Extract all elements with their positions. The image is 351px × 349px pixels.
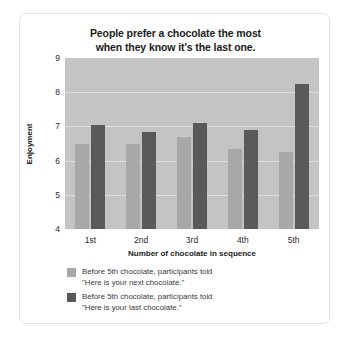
y-tick-label: 8 xyxy=(55,87,60,97)
legend-item: Before 5th chocolate, participants told"… xyxy=(67,292,317,313)
x-tick-label: 1st xyxy=(65,235,116,245)
y-tick-label: 5 xyxy=(55,190,60,200)
bar-2nd-series1 xyxy=(126,144,140,230)
y-tick-label: 7 xyxy=(55,121,60,131)
y-axis-label: Enjoyment xyxy=(25,123,34,164)
plot-wrapper: Enjoyment 456789 1st2nd3rd4th5th Number … xyxy=(65,58,319,229)
bar-1st-series1 xyxy=(75,144,89,230)
gridline xyxy=(65,92,319,93)
legend-label-line-1: Before 5th chocolate, participants told xyxy=(82,292,212,301)
bar-4th-series2 xyxy=(244,130,258,229)
legend-label-line-1: Before 5th chocolate, participants told xyxy=(82,267,212,276)
bar-2nd-series2 xyxy=(142,132,156,229)
bar-5th-series1 xyxy=(279,152,293,229)
bar-5th-series2 xyxy=(295,84,309,229)
bar-4th-series1 xyxy=(228,149,242,229)
x-tick-label: 2nd xyxy=(116,235,167,245)
legend-swatch-icon xyxy=(67,293,76,302)
x-tick-label: 4th xyxy=(217,235,268,245)
legend-label-line-2: "Here is your last chocolate." xyxy=(82,303,212,314)
legend-label: Before 5th chocolate, participants told"… xyxy=(82,292,212,313)
bar-3rd-series1 xyxy=(177,137,191,229)
x-axis-label: Number of chocolate in sequence xyxy=(65,249,319,258)
x-tick-label: 3rd xyxy=(167,235,218,245)
chart-card: People prefer a chocolate the most when … xyxy=(19,13,330,324)
y-tick-label: 9 xyxy=(55,53,60,63)
legend-item: Before 5th chocolate, participants told"… xyxy=(67,267,317,288)
legend-swatch-icon xyxy=(67,268,76,277)
bar-1st-series2 xyxy=(91,125,105,229)
bar-3rd-series2 xyxy=(193,123,207,229)
x-tick-label: 5th xyxy=(268,235,319,245)
chart-legend: Before 5th chocolate, participants told"… xyxy=(67,267,317,317)
y-tick-label: 4 xyxy=(55,224,60,234)
chart-title-line-2: when they know it's the last one. xyxy=(96,41,256,53)
y-tick-label: 6 xyxy=(55,156,60,166)
chart-title: People prefer a chocolate the most when … xyxy=(20,27,331,54)
chart-title-line-1: People prefer a chocolate the most xyxy=(90,27,261,39)
legend-label: Before 5th chocolate, participants told"… xyxy=(82,267,212,288)
legend-label-line-2: "Here is your next chocolate." xyxy=(82,278,212,289)
